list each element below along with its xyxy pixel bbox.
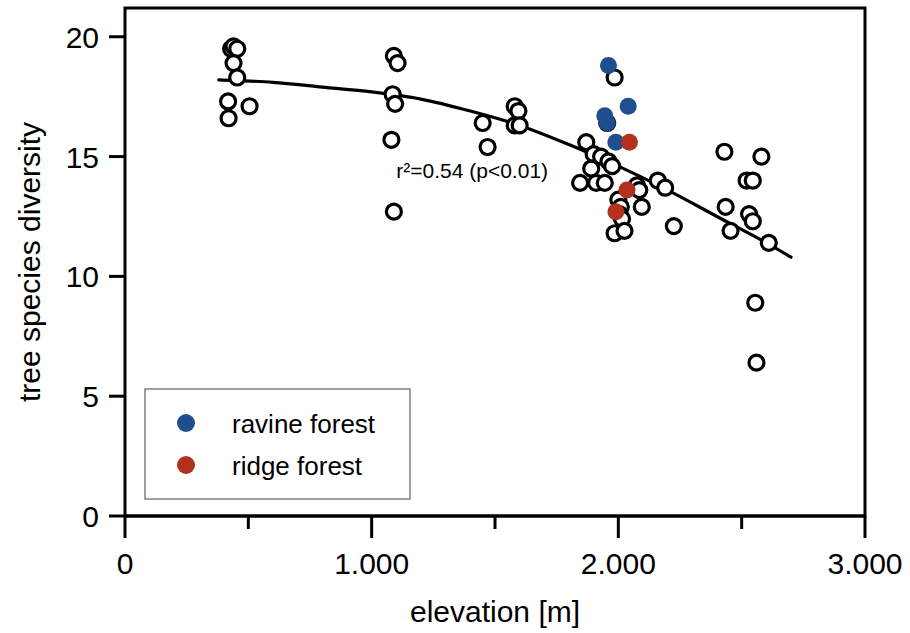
x-tick-label-1000: 1.000	[334, 547, 409, 580]
data-point	[607, 203, 624, 220]
data-point	[634, 199, 649, 214]
x-tick-label-0: 0	[117, 547, 134, 580]
data-point	[749, 355, 764, 370]
data-point	[745, 214, 760, 229]
legend-label-ridge: ridge forest	[232, 451, 363, 481]
data-point	[723, 223, 738, 238]
legend-label-ravine: ravine forest	[232, 409, 376, 439]
data-point	[745, 173, 760, 188]
data-point	[512, 118, 527, 133]
data-point	[511, 104, 526, 119]
chart-figure: 05101520 01.0002.0003.000 r²=0.54 (p<0.0…	[0, 0, 910, 633]
r-squared-annotation: r²=0.54 (p<0.01)	[396, 159, 548, 182]
data-point	[718, 199, 733, 214]
y-tick-label-0: 0	[82, 500, 99, 533]
data-point	[230, 41, 245, 56]
data-point	[617, 223, 632, 238]
data-point	[221, 111, 236, 126]
scatter-plot-svg: 05101520 01.0002.0003.000 r²=0.54 (p<0.0…	[0, 0, 910, 633]
data-point	[226, 56, 241, 71]
data-point	[761, 235, 776, 250]
data-point	[666, 219, 681, 234]
data-point	[480, 139, 495, 154]
data-point	[717, 144, 732, 159]
data-point	[573, 175, 588, 190]
legend-box	[145, 389, 410, 499]
y-tick-label-15: 15	[66, 141, 99, 174]
x-tick-label-3000: 3.000	[827, 547, 902, 580]
data-point	[621, 134, 638, 151]
data-point	[658, 180, 673, 195]
data-point	[605, 159, 620, 174]
data-point	[384, 132, 399, 147]
data-point	[230, 70, 245, 85]
y-tick-label-20: 20	[66, 21, 99, 54]
data-point	[221, 94, 236, 109]
data-point	[475, 116, 490, 131]
y-axis-title: tree species diversity	[13, 122, 46, 402]
x-tick-label-2000: 2.000	[581, 547, 656, 580]
data-point	[618, 182, 635, 199]
legend: ravine forestridge forest	[145, 389, 410, 499]
y-axis-tick-labels: 05101520	[66, 21, 99, 533]
data-point	[620, 98, 637, 115]
legend-marker-ravine	[177, 414, 195, 432]
y-axis-ticks	[109, 37, 125, 516]
x-axis-ticks	[125, 516, 865, 538]
data-point	[597, 175, 612, 190]
data-point	[388, 96, 403, 111]
data-point	[754, 149, 769, 164]
x-axis-title: elevation [m]	[410, 595, 580, 628]
data-point	[748, 295, 763, 310]
data-point	[390, 56, 405, 71]
data-point	[242, 99, 257, 114]
x-axis-tick-labels: 01.0002.0003.000	[117, 547, 903, 580]
data-point	[386, 204, 401, 219]
data-point	[600, 57, 617, 74]
data-point	[584, 161, 599, 176]
y-tick-label-10: 10	[66, 260, 99, 293]
data-point	[599, 115, 616, 132]
legend-marker-ridge	[177, 456, 195, 474]
y-tick-label-5: 5	[82, 380, 99, 413]
